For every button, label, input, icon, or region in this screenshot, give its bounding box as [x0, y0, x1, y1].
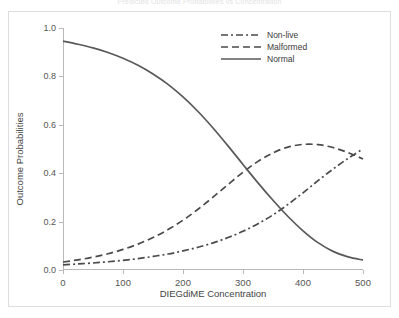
y-tick-label: 0.2: [30, 217, 56, 227]
legend-swatch-dashed-icon: [221, 42, 261, 52]
x-tick: [303, 270, 304, 274]
x-tick-label: 100: [115, 277, 131, 288]
y-tick-label: 0.0: [30, 265, 56, 275]
plot-axes: 0.00.20.40.60.81.0 0100200300400500: [63, 28, 363, 270]
y-tick-label: 1.0: [30, 23, 56, 33]
x-tick-label: 200: [175, 277, 191, 288]
plot-card: Outcome Probabilities DIEGdiME Concentra…: [8, 11, 391, 307]
y-tick-label: 0.6: [30, 120, 56, 130]
series-line-normal: [63, 41, 363, 260]
x-tick-label: 0: [60, 277, 65, 288]
x-tick: [243, 270, 244, 274]
x-tick-label: 400: [295, 277, 311, 288]
x-tick: [63, 270, 64, 274]
y-tick-label: 0.4: [30, 168, 56, 178]
legend-item-malformed[interactable]: Malformed: [221, 41, 307, 53]
y-tick-label: 0.8: [30, 71, 56, 81]
series-line-non-live: [63, 149, 363, 265]
x-tick: [123, 270, 124, 274]
figure-title: Predicted Outcome Probabilities vs Conce…: [0, 0, 399, 6]
legend-item-normal[interactable]: Normal: [221, 53, 307, 65]
legend-label: Normal: [267, 53, 294, 65]
x-tick: [363, 270, 364, 274]
legend-swatch-solid-icon: [221, 54, 261, 64]
x-tick-label: 500: [355, 277, 371, 288]
chart-legend: Non-liveMalformedNormal: [221, 29, 307, 65]
x-tick: [183, 270, 184, 274]
y-axis-title: Outcome Probabilities: [14, 113, 25, 206]
curve-layer: [63, 28, 363, 270]
chart-figure: Predicted Outcome Probabilities vs Conce…: [0, 0, 399, 318]
legend-label: Non-live: [267, 29, 298, 41]
legend-swatch-dashdot-icon: [221, 30, 261, 40]
x-axis-title: DIEGdiME Concentration: [63, 288, 363, 299]
legend-label: Malformed: [267, 41, 307, 53]
x-tick-label: 300: [235, 277, 251, 288]
series-line-malformed: [63, 144, 363, 262]
legend-item-non-live[interactable]: Non-live: [221, 29, 307, 41]
